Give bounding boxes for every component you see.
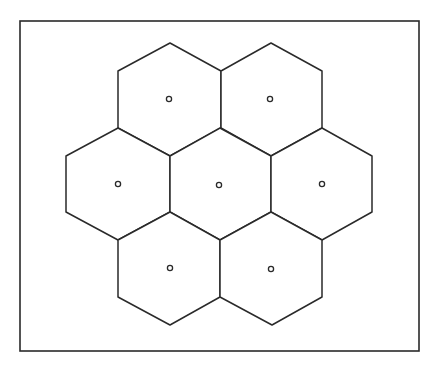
center-marker-icon: [216, 182, 221, 187]
center-marker-icon: [268, 266, 273, 271]
center-marker-icon: [115, 181, 120, 186]
hexagon-cluster-diagram: [0, 0, 433, 369]
center-marker-icon: [166, 96, 171, 101]
center-marker-icon: [267, 96, 272, 101]
center-marker-icon: [319, 181, 324, 186]
center-marker-icon: [167, 265, 172, 270]
